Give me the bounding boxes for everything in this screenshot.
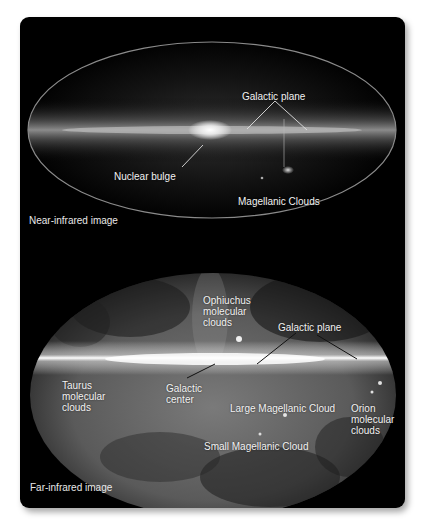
label-small-magellanic-cloud: Small Magellanic Cloud bbox=[204, 441, 309, 452]
infrared-sky-figure: Galactic plane Nuclear bulge Magellanic … bbox=[20, 17, 405, 508]
label-large-magellanic-cloud: Large Magellanic Cloud bbox=[230, 403, 335, 414]
label-ophiuchus-molecular-clouds: Ophiuchus molecular clouds bbox=[203, 295, 251, 328]
label-galactic-plane-far: Galactic plane bbox=[278, 322, 341, 333]
label-magellanic-clouds: Magellanic Clouds bbox=[238, 196, 320, 207]
near-infrared-sky-map bbox=[20, 17, 405, 247]
far-infrared-panel: Ophiuchus molecular clouds Galactic plan… bbox=[20, 247, 405, 508]
label-orion-molecular-clouds: Orion molecular clouds bbox=[351, 403, 394, 436]
near-infrared-panel: Galactic plane Nuclear bulge Magellanic … bbox=[20, 17, 405, 247]
label-galactic-center: Galactic center bbox=[166, 383, 202, 405]
caption-near-infrared: Near-infrared image bbox=[29, 215, 118, 226]
far-infrared-sky-map bbox=[20, 247, 405, 508]
label-galactic-plane-near: Galactic plane bbox=[242, 91, 305, 102]
label-nuclear-bulge: Nuclear bulge bbox=[114, 171, 176, 182]
caption-far-infrared: Far-infrared image bbox=[30, 482, 112, 493]
label-taurus-molecular-clouds: Taurus molecular clouds bbox=[62, 380, 105, 413]
